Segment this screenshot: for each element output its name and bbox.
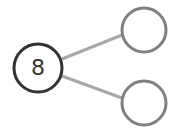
connector-top [62, 35, 122, 59]
part-circle-top[interactable] [122, 8, 166, 52]
part-circle-bottom[interactable] [122, 81, 166, 125]
whole-value: 8 [14, 52, 62, 84]
connector-bottom [62, 76, 122, 98]
